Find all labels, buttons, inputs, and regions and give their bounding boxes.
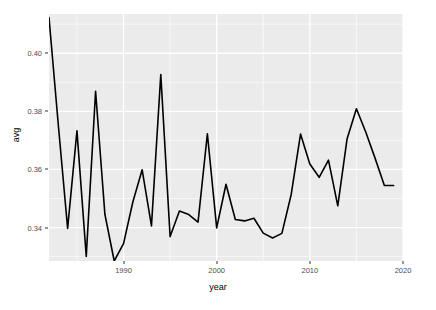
y-tick-label: 0.34 <box>8 223 42 232</box>
avg-series-line <box>49 17 394 261</box>
y-tick-mark <box>45 111 48 112</box>
y-tick-label: 0.36 <box>8 165 42 174</box>
plot-panel <box>49 14 403 261</box>
y-tick-mark <box>45 53 48 54</box>
x-axis-title: year <box>0 282 436 292</box>
y-tick-mark <box>45 169 48 170</box>
x-tick-mark <box>309 261 310 264</box>
x-tick-mark <box>216 261 217 264</box>
x-tick-mark <box>403 261 404 264</box>
y-tick-label: 0.40 <box>8 49 42 58</box>
y-axis-title: avg <box>11 105 21 165</box>
chart-figure: 0.340.360.380.40 1990200020102020 year a… <box>0 0 436 310</box>
x-tick-label: 2000 <box>197 266 237 275</box>
x-tick-mark <box>123 261 124 264</box>
x-tick-label: 2010 <box>290 266 330 275</box>
y-tick-mark <box>45 227 48 228</box>
data-line-series <box>49 14 403 261</box>
x-tick-label: 1990 <box>104 266 144 275</box>
x-tick-label: 2020 <box>383 266 423 275</box>
